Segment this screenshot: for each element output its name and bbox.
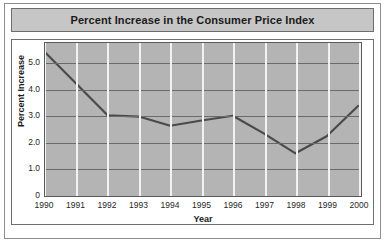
gridline-vertical	[107, 43, 109, 196]
gridline-vertical	[296, 43, 298, 196]
x-axis-tick-label: 2000	[350, 200, 369, 210]
chart-figure: Percent Increase in the Consumer Price I…	[0, 0, 385, 243]
y-axis-tick-label: 5.0	[10, 57, 40, 67]
x-axis-tick-labels: 1990199119921993199419951996199719981999…	[44, 200, 362, 212]
chart-title: Percent Increase in the Consumer Price I…	[70, 14, 314, 26]
gridline-vertical	[233, 43, 235, 196]
y-axis-tick-label: 0	[10, 190, 40, 200]
y-axis-tick-label: 3.0	[10, 110, 40, 120]
x-axis-tick-label: 1991	[66, 200, 85, 210]
x-axis-tick-label: 1999	[318, 200, 337, 210]
x-axis-tick-label: 1993	[129, 200, 148, 210]
gridline-vertical	[139, 43, 141, 196]
x-axis-tick-label: 1998	[287, 200, 306, 210]
x-axis-tick-label: 1997	[255, 200, 274, 210]
x-axis-tick-label: 1994	[161, 200, 180, 210]
gridline-vertical	[202, 43, 204, 196]
x-axis-title: Year	[44, 214, 362, 224]
x-axis-tick-label: 1996	[224, 200, 243, 210]
y-axis-tick-label: 2.0	[10, 137, 40, 147]
y-axis-tick-labels: 01.02.03.04.05.0	[8, 42, 40, 197]
x-axis-tick-label: 1995	[192, 200, 211, 210]
x-axis-tick-label: 1992	[98, 200, 117, 210]
gridline-vertical	[328, 43, 330, 196]
gridline-vertical	[359, 43, 361, 196]
gridline-horizontal	[45, 196, 361, 197]
x-axis-tick-label: 1990	[35, 200, 54, 210]
y-axis-tick-label: 4.0	[10, 84, 40, 94]
gridline-vertical	[170, 43, 172, 196]
y-axis-tick-label: 1.0	[10, 163, 40, 173]
chart-title-box: Percent Increase in the Consumer Price I…	[11, 8, 374, 32]
gridline-vertical	[44, 43, 46, 196]
gridline-vertical	[76, 43, 78, 196]
gridline-vertical	[265, 43, 267, 196]
plot-area	[44, 42, 362, 197]
